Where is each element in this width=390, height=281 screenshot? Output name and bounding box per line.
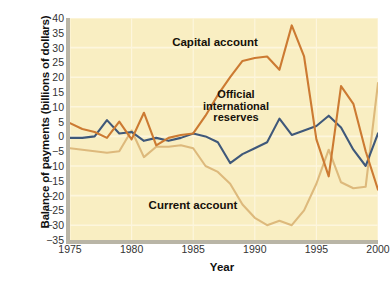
x-tick-1995: 1995: [305, 243, 328, 255]
y-tick--5: −5: [52, 146, 64, 157]
x-tick-1975: 1975: [58, 243, 81, 255]
y-tick-5: 5: [58, 116, 64, 127]
y-axis-tick-labels: 4035302520151050−5−10−15−20−25−30−35: [36, 18, 64, 240]
y-tick-30: 30: [52, 42, 64, 53]
annotation-current-account: Current account: [128, 199, 258, 211]
y-tick-15: 15: [52, 87, 64, 98]
y-tick-35: 35: [52, 28, 64, 39]
x-tick-1980: 1980: [120, 243, 143, 255]
y-tick--10: −10: [46, 161, 64, 172]
y-tick--15: −15: [46, 176, 64, 187]
y-tick-10: 10: [52, 102, 64, 113]
annotation-capital-account: Capital account: [150, 36, 280, 48]
x-tick-1990: 1990: [243, 243, 266, 255]
y-tick--20: −20: [46, 190, 64, 201]
x-tick-2000: 2000: [366, 243, 389, 255]
annotation-official-international-reserves: Official international reserves: [186, 89, 286, 124]
x-axis-tick-labels: 197519801985199019952000: [0, 243, 384, 259]
y-tick-20: 20: [52, 72, 64, 83]
x-tick-1985: 1985: [182, 243, 205, 255]
y-tick--30: −30: [46, 220, 64, 231]
y-tick-25: 25: [52, 57, 64, 68]
y-tick--25: −25: [46, 205, 64, 216]
figure-caption: [0, 272, 384, 281]
y-tick-40: 40: [52, 13, 64, 24]
y-tick-0: 0: [58, 131, 64, 142]
